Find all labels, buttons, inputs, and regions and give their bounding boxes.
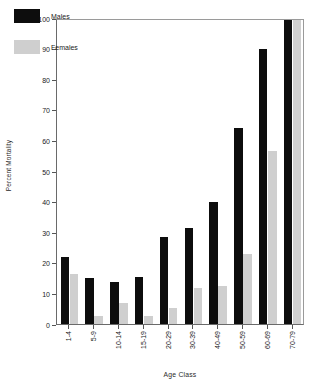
x-axis-tick-mark [68,325,69,329]
bar-females-1-4 [70,274,79,324]
x-axis-tick-label: 5-9 [90,331,97,341]
legend-item-females: Females [14,40,134,54]
bar-males-40-49 [209,202,218,324]
legend-label-females: Females [51,44,78,51]
x-axis-tick-label: 50-59 [239,331,246,349]
bar-males-30-39 [185,228,194,324]
x-axis-tick-label: 10-14 [115,331,122,349]
x-axis-tick-label: 30-39 [189,331,196,349]
x-axis-tick-label: 70-79 [288,331,295,349]
bar-males-70-79 [284,19,293,324]
y-axis-tick-label: 20 [42,260,52,267]
bar-females-70-79 [293,19,302,324]
bar-females-15-19 [144,316,153,324]
x-axis-tick-mark [93,325,94,329]
bar-group [259,20,277,324]
x-axis-tick-label: 60-69 [263,331,270,349]
bar-females-20-29 [169,308,178,324]
x-axis-tick-label: 15-19 [139,331,146,349]
bar-males-1-4 [61,257,70,324]
x-axis-tick-label: 20-29 [164,331,171,349]
x-axis-tick-mark [168,325,169,329]
bar-males-60-69 [259,49,268,324]
bar-females-10-14 [119,303,128,324]
x-axis-ticks: 1-45-910-1415-1920-2930-3940-4950-5960-6… [56,325,304,367]
mortality-by-age-class-bar-chart: Percent Mortality 0102030405060708090100… [0,0,320,391]
x-axis-tick-mark [192,325,193,329]
x-axis-tick-label: 1-4 [65,331,72,341]
bar-group [284,20,302,324]
bar-males-20-29 [160,237,169,324]
bar-group [135,20,153,324]
bar-group [160,20,178,324]
x-axis-title: Age Class [56,371,304,378]
y-axis-tick-label: 30 [42,230,52,237]
x-axis-tick-mark [118,325,119,329]
bar-group [209,20,227,324]
bar-males-15-19 [135,277,144,324]
bar-females-30-39 [194,288,203,324]
bar-females-5-9 [94,316,103,324]
y-axis-tick-label: 70 [42,107,52,114]
y-axis-tick-label: 80 [42,77,52,84]
legend-item-males: Males [14,9,134,23]
bar-females-50-59 [243,254,252,324]
bar-females-40-49 [218,286,227,324]
y-axis-tick-label: 10 [42,291,52,298]
x-axis-tick-mark [267,325,268,329]
bar-males-50-59 [234,128,243,324]
chart-legend: MalesFemales [14,9,134,71]
bar-males-5-9 [85,278,94,324]
bar-group [234,20,252,324]
legend-label-males: Males [51,13,70,20]
bar-males-10-14 [110,282,119,324]
y-axis-tick-label: 50 [42,169,52,176]
x-axis-tick-mark [292,325,293,329]
bar-females-60-69 [268,151,277,324]
x-axis-tick-mark [217,325,218,329]
y-axis-tick-label: 40 [42,199,52,206]
bar-group [185,20,203,324]
legend-swatch-females [14,40,40,54]
y-axis-tick-label: 60 [42,138,52,145]
legend-swatch-males [14,9,40,23]
x-axis-tick-mark [242,325,243,329]
x-axis-tick-label: 40-49 [214,331,221,349]
x-axis-tick-mark [143,325,144,329]
y-axis-title-text: Percent Mortality [6,139,13,190]
